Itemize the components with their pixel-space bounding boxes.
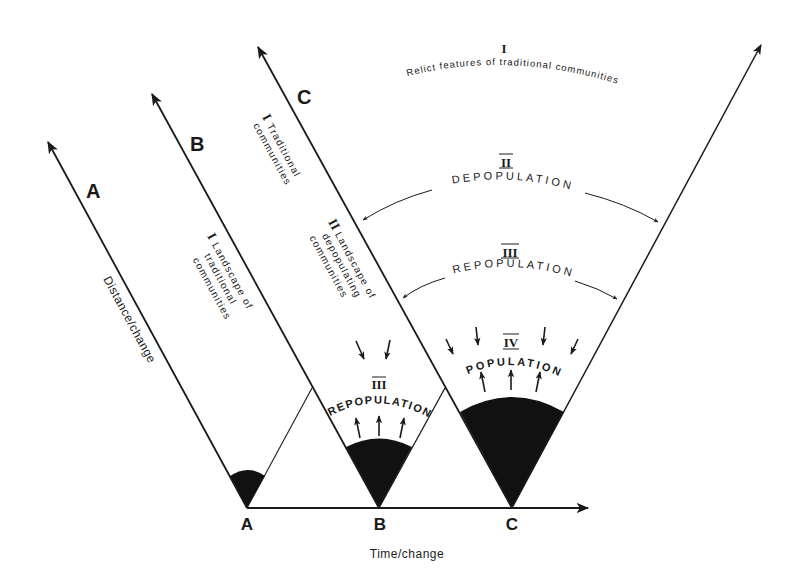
b-fan-numeral: III — [371, 377, 386, 392]
axis-a-letter: A — [86, 180, 100, 202]
axis-a-line — [48, 142, 247, 508]
c-upper-annotation: I Traditional communities — [250, 111, 307, 187]
b-fan-label: REPOPULATION — [326, 393, 435, 419]
diagram-svg: A B C A B C Time/change Distance/change … — [0, 0, 808, 587]
b-region-annotation: I Landscape of traditional communities — [184, 230, 258, 322]
x-axis-label: Time/change — [370, 547, 444, 561]
y-axis-label: Distance/change — [100, 274, 159, 366]
c-fan-numeral: IV — [504, 335, 519, 350]
repopulation-arc-right — [575, 281, 617, 299]
baseline-a-letter: A — [241, 515, 253, 534]
baseline-b-letter: B — [374, 515, 386, 534]
svg-text:II: II — [325, 216, 343, 232]
relict-numeral: I — [501, 41, 506, 56]
outward-arrow-c3 — [536, 372, 540, 392]
depopulation-arc-left — [363, 190, 432, 220]
depopulation-label: DEPOPULATION — [451, 169, 575, 191]
fan-c — [460, 397, 564, 508]
axis-c-letter: C — [297, 86, 311, 108]
c-fan-label: POPULATION — [464, 355, 565, 379]
axis-b-line — [152, 94, 379, 508]
outward-arrow-b3 — [400, 418, 404, 438]
relict-label: Relict features of traditional communiti… — [405, 56, 620, 86]
svg-text:I: I — [204, 230, 220, 242]
baseline-c-letter: C — [506, 515, 518, 534]
inward-arrow-c3 — [543, 327, 545, 345]
inward-arrow-c2 — [476, 327, 478, 345]
fan-a-right-edge — [247, 388, 312, 508]
inward-arrow-b2 — [386, 340, 390, 359]
c-lower-annotation: II Landscape of depopulating communities — [305, 216, 381, 312]
inward-arrow-c1 — [446, 339, 453, 354]
fan-a — [230, 470, 265, 508]
fan-b — [346, 439, 412, 509]
inward-arrow-b1 — [356, 341, 364, 359]
fan-c-right-edge — [512, 45, 761, 508]
repopulation-label: REPOPULATION — [451, 257, 576, 279]
repopulation-arc-left — [403, 278, 445, 298]
outward-arrow-b1 — [356, 418, 360, 438]
diagram-canvas: A B C A B C Time/change Distance/change … — [0, 0, 808, 587]
inward-arrow-c4 — [571, 339, 578, 354]
outward-arrow-c1 — [481, 372, 485, 392]
depopulation-arc-right — [585, 193, 658, 222]
axis-b-letter: B — [190, 133, 204, 155]
